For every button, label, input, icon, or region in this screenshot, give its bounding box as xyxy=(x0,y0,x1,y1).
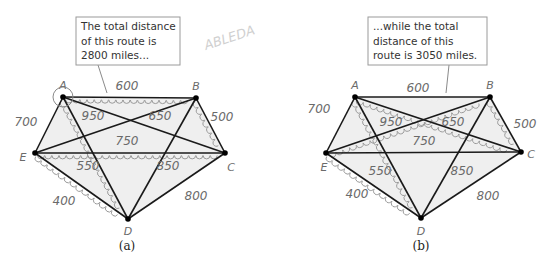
edge-weight-A-C: 650 xyxy=(442,115,465,129)
panel-a: 600500800400700650550950850750ABCDEThe t… xyxy=(15,17,236,253)
edge-weight-D-E: 400 xyxy=(53,194,76,208)
edge-weight-B-C: 500 xyxy=(211,110,234,124)
vertex-B xyxy=(193,95,199,101)
callout-pointer xyxy=(446,65,449,93)
edge-weight-B-D: 850 xyxy=(451,164,474,178)
edge-weight-C-E: 750 xyxy=(413,134,436,148)
edge-weight-A-C: 650 xyxy=(149,109,172,123)
vertex-label-C: C xyxy=(527,148,535,161)
edge-weight-C-D: 800 xyxy=(185,189,208,203)
vertex-label-E: E xyxy=(20,151,27,164)
edge-weight-E-A: 700 xyxy=(15,115,38,129)
edge-A-B xyxy=(63,97,196,98)
vertex-D xyxy=(125,216,131,222)
vertex-label-B: B xyxy=(486,79,494,92)
edge-weight-A-B: 600 xyxy=(116,79,139,93)
vertex-label-C: C xyxy=(227,161,235,174)
vertex-B xyxy=(487,94,493,100)
traveling-salesman-diagram: ABLEDA 600500800400700650550950850750ABC… xyxy=(0,0,550,268)
callout-line: The total distance xyxy=(80,20,176,32)
vertex-D xyxy=(418,215,424,221)
panel-b: 600500800400700650550950850750ABCDE...wh… xyxy=(308,17,537,253)
edge-weight-B-C: 500 xyxy=(514,117,537,131)
edge-weight-D-E: 400 xyxy=(346,187,369,201)
vertex-A xyxy=(60,94,66,100)
edge-weight-C-E: 750 xyxy=(116,134,139,148)
edge-weight-A-D: 550 xyxy=(77,159,100,173)
callout-line: distance of this xyxy=(373,35,453,47)
edge-weight-A-D: 550 xyxy=(369,164,392,178)
vertex-E xyxy=(32,150,38,156)
callout-line: ...while the total xyxy=(373,20,458,32)
vertex-label-E: E xyxy=(321,161,328,174)
vertex-label-D: D xyxy=(417,225,425,238)
callout-pointer xyxy=(98,65,107,93)
vertex-label-A: A xyxy=(350,79,359,92)
vertex-E xyxy=(323,150,329,156)
edge-weight-C-D: 800 xyxy=(477,189,500,203)
vertex-label-A: A xyxy=(58,79,67,92)
edge-C-E xyxy=(326,152,521,153)
edge-weight-B-E: 950 xyxy=(380,115,403,129)
callout-line: 2800 miles... xyxy=(81,49,149,61)
panel-caption: (b) xyxy=(412,239,429,253)
callout-line: of this route is xyxy=(81,35,156,47)
edge-weight-E-A: 700 xyxy=(308,102,331,116)
edge-weight-B-E: 950 xyxy=(82,109,105,123)
callout-line: route is 3050 miles. xyxy=(373,49,477,61)
watermark: ABLEDA xyxy=(201,22,256,53)
vertex-label-D: D xyxy=(124,225,132,238)
edge-weight-B-D: 850 xyxy=(157,159,180,173)
vertex-A xyxy=(352,94,358,100)
vertex-label-B: B xyxy=(192,80,200,93)
edge-weight-A-B: 600 xyxy=(407,81,430,95)
panel-caption: (a) xyxy=(119,239,136,253)
vertex-C xyxy=(518,149,524,155)
vertex-C xyxy=(222,150,228,156)
